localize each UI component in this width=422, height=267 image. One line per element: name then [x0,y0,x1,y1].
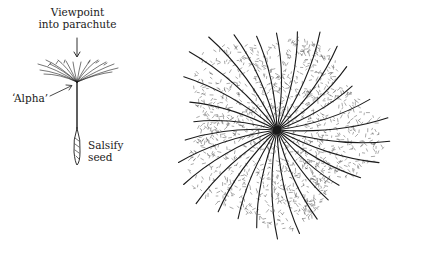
salsify-seed-label: Salsify seed [88,139,123,163]
parachute-side-bristles [38,60,118,82]
pappus-center [273,126,281,134]
alpha-label: ‘Alpha’ [12,92,48,104]
viewpoint-label-line2: into parachute [30,18,125,30]
seed-label-line1: Salsify [88,139,123,151]
illustration [0,0,422,267]
viewpoint-label-line1: Viewpoint [30,6,125,18]
seed-body [74,128,80,165]
alpha-arrow-icon [50,86,71,96]
top-view-parachute-drawing [179,32,390,239]
viewpoint-label: Viewpoint into parachute [30,6,125,30]
seed-label-line2: seed [88,151,123,163]
